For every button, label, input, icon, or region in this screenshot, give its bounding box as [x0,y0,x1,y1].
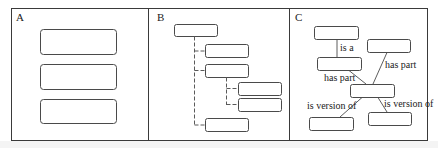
tree-root-node [175,25,218,37]
edge-label-has-part-right: has part [385,59,417,70]
graph-node-6 [369,113,412,126]
edge-label-version-right: is version of [384,98,434,109]
diagram-canvas: A B C [0,0,438,148]
tree-child-node-2 [206,65,249,78]
tree-grandchild-node-1 [239,83,282,96]
edge-label-has-part-left: has part [324,72,356,83]
tree-grandchild-node-2 [239,99,282,112]
graph-node-3 [318,58,362,71]
panel-b-label: B [157,11,164,23]
tree-child-node-3 [206,119,249,132]
graph-node-5 [310,118,354,131]
graph-node-4 [351,85,395,98]
panel-a-box-2 [41,65,117,90]
panel-a-box-1 [41,30,117,55]
panel-c-label: C [295,11,302,23]
panel-a-box-3 [41,100,117,124]
edge-label-is-a: is a [340,42,354,53]
graph-node-2 [368,40,411,53]
graph-node-1 [315,27,359,40]
edge-label-version-left: is version of [307,100,357,111]
tree-child-node-1 [206,45,249,58]
panel-a-label: A [16,11,24,23]
